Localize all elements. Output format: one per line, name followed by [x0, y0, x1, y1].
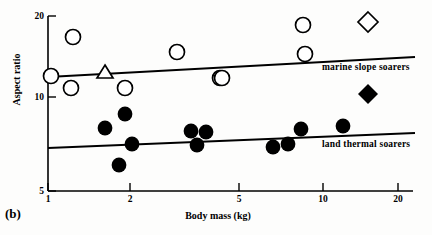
annotation-land-thermal-soarers: land thermal soarers — [322, 139, 410, 149]
xtick-label-1: 1 — [38, 194, 58, 204]
panel-label: (b) — [5, 206, 21, 222]
ytick-label-20: 20 — [20, 11, 44, 21]
series-marine-open-triangle — [97, 65, 113, 78]
xtick-label-10: 10 — [313, 194, 333, 204]
ytick-label-10: 10 — [20, 92, 44, 102]
scatter-plot — [0, 0, 432, 235]
x-axis-title: Body mass (kg) — [148, 210, 288, 221]
series-marine-open-circles — [44, 18, 313, 96]
annotation-marine-slope-soarers: marine slope soarers — [322, 62, 410, 72]
xtick-label-20: 20 — [388, 194, 408, 204]
series-marine-open-diamond — [358, 12, 378, 32]
axes — [48, 16, 413, 191]
xtick-label-2: 2 — [120, 194, 140, 204]
series-land-filled-diamond — [358, 84, 378, 104]
xtick-label-5: 5 — [229, 194, 249, 204]
figure-panel-b: 20 10 5 1 2 5 10 20 Aspect ratio Body ma… — [0, 0, 432, 235]
y-axis-title: Aspect ratio — [11, 45, 22, 115]
series-land-filled-circles — [98, 107, 351, 173]
